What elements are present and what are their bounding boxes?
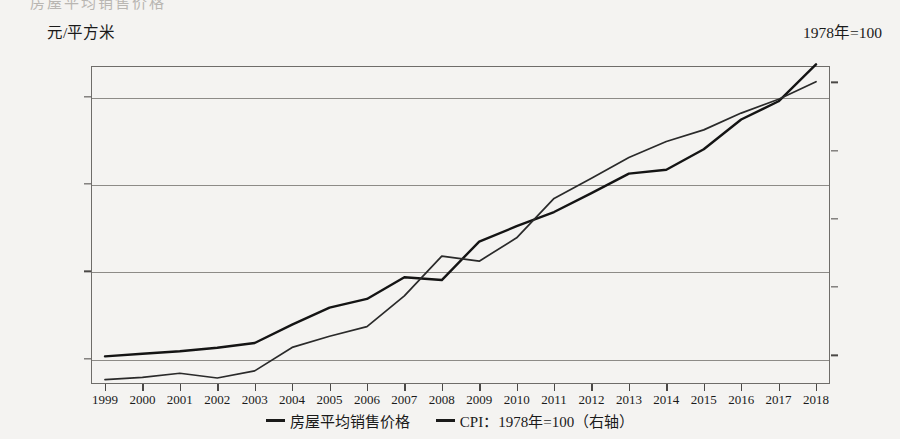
x-axis-tick-mark [292,384,293,391]
x-axis-tick-mark [367,384,368,391]
x-axis-tick-label: 2018 [803,392,829,408]
x-axis-tick-label: 2005 [317,392,343,408]
x-axis-tick-label: 2002 [204,392,230,408]
y-axis-right-tick-mark [831,286,838,287]
chart-figure: 房屋平均销售价格 元/平方米 1978年=100 2 000.004 000.0… [0,0,900,439]
chart-legend: 房屋平均销售价格 CPI：1978年=100（右轴） [0,410,900,431]
x-axis-tick-label: 2015 [691,392,717,408]
x-axis-tick-label: 2011 [541,392,567,408]
x-axis-tick-label: 2014 [653,392,679,408]
x-axis-tick-label: 2006 [354,392,380,408]
y-axis-right-tick-mark [831,355,838,356]
legend-label-housing-price: 房屋平均销售价格 [290,410,410,431]
x-axis-tick-label: 2010 [504,392,530,408]
x-axis-tick-mark [105,384,106,391]
y-axis-left-tick-mark [84,96,91,97]
y-axis-left-tick-mark [84,358,91,359]
y-axis-right-tick-mark [831,82,838,83]
y-axis-left-tick-mark [84,183,91,184]
x-axis-tick-label: 2013 [616,392,642,408]
series-layer [0,0,900,439]
x-axis-tick-label: 2003 [242,392,268,408]
x-axis-tick-label: 2001 [167,392,193,408]
x-axis-tick-mark [442,384,443,391]
x-axis-tick-mark [479,384,480,391]
legend-item-housing-price: 房屋平均销售价格 [266,410,410,431]
x-axis-tick-mark [591,384,592,391]
x-axis-tick-mark [217,384,218,391]
x-axis-tick-mark [517,384,518,391]
x-axis-tick-label: 2004 [279,392,305,408]
x-axis-tick-label: 2008 [429,392,455,408]
x-axis-tick-mark [779,384,780,391]
x-axis-tick-mark [704,384,705,391]
line-housing-price [105,64,816,356]
y-axis-right-tick-mark [831,218,838,219]
x-axis-tick-mark [404,384,405,391]
x-axis-tick-label: 2012 [578,392,604,408]
x-axis-tick-label: 2016 [728,392,754,408]
legend-swatch-cpi [436,419,455,422]
x-axis-tick-label: 2000 [129,392,155,408]
x-axis-tick-label: 2009 [466,392,492,408]
x-axis-tick-mark [629,384,630,391]
y-axis-right-tick-mark [831,150,838,151]
x-axis-tick-label: 2007 [391,392,417,408]
line-cpi [105,82,816,380]
x-axis-tick-label: 1999 [92,392,118,408]
x-axis-tick-mark [554,384,555,391]
x-axis-tick-label: 2017 [766,392,792,408]
legend-swatch-housing-price [266,419,285,422]
y-axis-left-tick-mark [84,271,91,272]
x-axis-tick-mark [666,384,667,391]
legend-label-cpi: CPI：1978年=100（右轴） [460,410,634,431]
x-axis-tick-mark [741,384,742,391]
legend-item-cpi: CPI：1978年=100（右轴） [436,410,634,431]
x-axis-tick-mark [816,384,817,391]
x-axis-tick-mark [255,384,256,391]
x-axis-tick-mark [330,384,331,391]
x-axis-tick-mark [142,384,143,391]
x-axis-tick-mark [180,384,181,391]
